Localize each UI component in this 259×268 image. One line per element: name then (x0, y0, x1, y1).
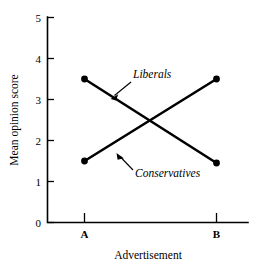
x-tick-label-a: A (81, 228, 89, 240)
y-axis-title: Mean opinion score (8, 74, 21, 165)
series-liberals-point-a (81, 76, 88, 83)
series-liberals-point-b (213, 160, 220, 167)
y-axis-ticks (48, 18, 55, 223)
annotation-conservatives-label: Conservatives (135, 167, 201, 179)
x-axis-tick-labels: A B (81, 228, 221, 240)
annotation-liberals-leader (115, 82, 132, 96)
y-tick-label-3: 3 (36, 94, 42, 106)
x-tick-label-b: B (213, 228, 221, 240)
chart-canvas: 0 1 2 3 4 5 A B Advertisement Mean opini… (0, 0, 259, 268)
x-axis-ticks (85, 213, 217, 223)
y-tick-label-5: 5 (36, 12, 42, 24)
annotation-conservatives: Conservatives (117, 153, 201, 179)
y-tick-label-2: 2 (36, 135, 42, 147)
annotation-liberals: Liberals (111, 68, 172, 100)
series-conservatives-point-b (213, 76, 220, 83)
y-tick-label-0: 0 (36, 217, 42, 229)
y-axis-tick-labels: 0 1 2 3 4 5 (36, 12, 42, 229)
series-conservatives-point-a (81, 158, 88, 165)
annotation-liberals-label: Liberals (132, 68, 172, 80)
y-tick-label-4: 4 (36, 53, 42, 65)
y-tick-label-1: 1 (36, 176, 42, 188)
x-axis-title: Advertisement (114, 249, 183, 261)
line-chart-figure: 0 1 2 3 4 5 A B Advertisement Mean opini… (0, 0, 259, 268)
